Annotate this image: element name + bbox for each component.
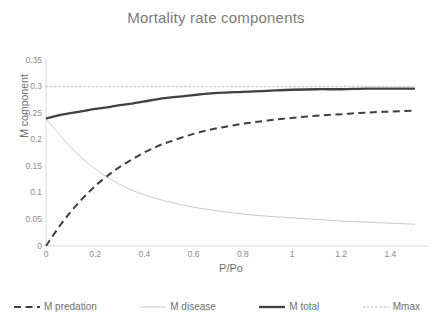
- x-tick-label: 0.2: [75, 250, 115, 259]
- x-tick-label: 0.8: [223, 250, 263, 259]
- legend-item-m-predation[interactable]: M predation: [14, 301, 97, 313]
- legend-item-mmax[interactable]: Mmax: [363, 301, 420, 313]
- legend-label: M disease: [170, 301, 216, 313]
- x-tick-label: 0.4: [124, 250, 164, 259]
- legend-item-m-disease[interactable]: M disease: [140, 301, 216, 313]
- legend-swatch-icon: [259, 302, 285, 312]
- series-lines: [46, 87, 415, 246]
- x-axis-title: P/Po: [46, 262, 416, 274]
- x-tick-label: 0: [26, 250, 66, 259]
- legend-label: M predation: [44, 301, 97, 313]
- legend-item-m-total[interactable]: M total: [259, 301, 319, 313]
- chart-legend: M predationM diseaseM totalMmax: [0, 296, 432, 318]
- chart-container: Mortality rate components M component 00…: [0, 0, 432, 320]
- legend-label: Mmax: [393, 301, 420, 313]
- series-line-m-predation: [46, 110, 415, 246]
- legend-swatch-icon: [14, 302, 40, 312]
- legend-label: M total: [289, 301, 319, 313]
- series-line-m-disease: [46, 118, 415, 224]
- x-tick-label: 1: [272, 250, 312, 259]
- legend-swatch-icon: [140, 302, 166, 312]
- series-line-m-total: [46, 89, 415, 119]
- x-tick-label: 1.4: [370, 250, 410, 259]
- legend-swatch-icon: [363, 302, 389, 312]
- x-tick-label: 0.6: [174, 250, 214, 259]
- x-tick-label: 1.2: [321, 250, 361, 259]
